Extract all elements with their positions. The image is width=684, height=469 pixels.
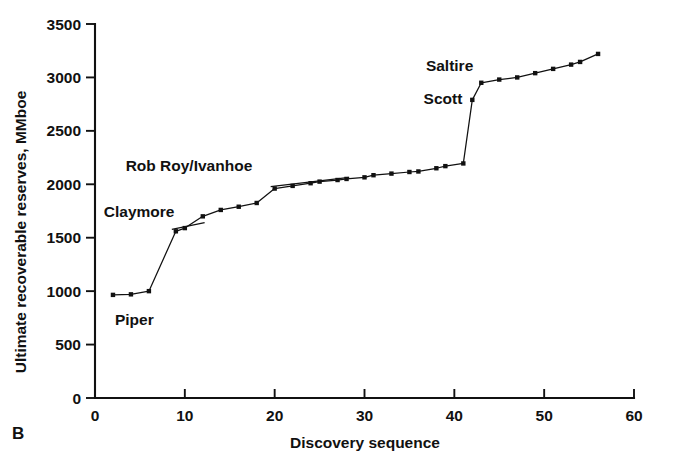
y-tick-label: 3500 bbox=[47, 16, 81, 33]
annotation-label: Saltire bbox=[426, 57, 474, 74]
data-point bbox=[237, 205, 241, 209]
data-point bbox=[111, 293, 115, 297]
data-point bbox=[389, 171, 393, 175]
x-tick-label: 50 bbox=[536, 407, 553, 424]
y-tick-label: 2500 bbox=[47, 122, 81, 139]
series-annotations: PiperClaymoreRob Roy/IvanhoeScottSaltire bbox=[104, 57, 474, 328]
data-point bbox=[407, 170, 411, 174]
y-axis-title: Ultimate recoverable reserves, MMboe bbox=[12, 90, 29, 373]
data-point bbox=[272, 186, 276, 190]
data-point bbox=[470, 98, 474, 102]
x-tick-label: 60 bbox=[625, 407, 642, 424]
annotation-label: Scott bbox=[424, 90, 463, 107]
data-point bbox=[174, 229, 178, 233]
figure-panel-b: 0500100015002000250030003500 01020304050… bbox=[0, 0, 684, 469]
data-point bbox=[497, 77, 501, 81]
annotation-label: Claymore bbox=[104, 203, 175, 220]
annotation-label: Piper bbox=[115, 311, 154, 328]
y-tick-label: 2000 bbox=[47, 176, 81, 193]
data-point bbox=[551, 67, 555, 71]
x-axis-ticks: 0102030405060 bbox=[91, 389, 643, 424]
y-tick-label: 500 bbox=[55, 336, 81, 353]
data-point bbox=[371, 173, 375, 177]
y-tick-label: 1500 bbox=[47, 229, 81, 246]
data-point bbox=[434, 166, 438, 170]
data-point bbox=[201, 214, 205, 218]
data-point bbox=[219, 208, 223, 212]
data-series bbox=[111, 52, 601, 297]
y-tick-label: 3000 bbox=[47, 69, 81, 86]
data-point bbox=[515, 75, 519, 79]
data-point bbox=[578, 60, 582, 64]
data-point bbox=[569, 62, 573, 66]
x-tick-label: 40 bbox=[446, 407, 463, 424]
x-tick-label: 10 bbox=[176, 407, 193, 424]
data-point bbox=[147, 289, 151, 293]
data-point bbox=[362, 175, 366, 179]
series-markers bbox=[111, 52, 601, 297]
data-point bbox=[533, 71, 537, 75]
data-point bbox=[416, 169, 420, 173]
y-tick-label: 0 bbox=[72, 390, 81, 407]
y-tick-label: 1000 bbox=[47, 283, 81, 300]
x-axis-title: Discovery sequence bbox=[290, 434, 440, 451]
x-tick-label: 30 bbox=[356, 407, 373, 424]
y-axis-ticks: 0500100015002000250030003500 bbox=[47, 16, 95, 407]
x-tick-label: 0 bbox=[91, 407, 100, 424]
data-point bbox=[129, 292, 133, 296]
data-point bbox=[461, 161, 465, 165]
data-point bbox=[596, 52, 600, 56]
annotation-leader-line bbox=[172, 223, 205, 230]
annotation-label: Rob Roy/Ivanhoe bbox=[126, 157, 253, 174]
data-point bbox=[255, 201, 259, 205]
chart-canvas: 0500100015002000250030003500 01020304050… bbox=[0, 0, 684, 469]
x-tick-label: 20 bbox=[266, 407, 283, 424]
series-line-ultimate-recoverable-reserves bbox=[113, 54, 598, 295]
data-point bbox=[479, 81, 483, 85]
data-point bbox=[443, 164, 447, 168]
panel-label: B bbox=[12, 424, 24, 444]
